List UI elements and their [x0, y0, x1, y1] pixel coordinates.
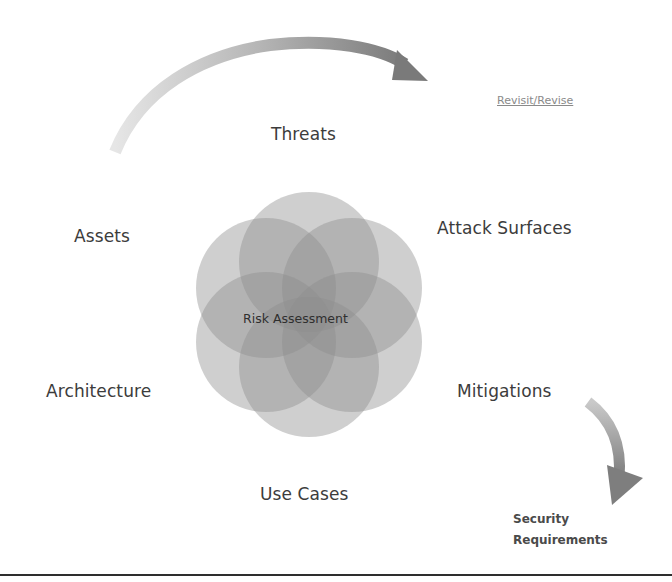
security-requirements-label: Security Requirements — [513, 509, 608, 551]
revisit-revise-label: Revisit/Revise — [497, 94, 573, 107]
node-assets: Assets — [74, 226, 130, 246]
venn-circle-top-left — [196, 218, 336, 358]
node-mitigations: Mitigations — [457, 381, 552, 401]
bottom-divider — [0, 574, 672, 576]
security-requirements-line2: Requirements — [513, 530, 608, 551]
node-attack-surfaces: Attack Surfaces — [437, 218, 572, 238]
node-architecture: Architecture — [46, 381, 151, 401]
security-requirements-line1: Security — [513, 509, 608, 530]
node-threats: Threats — [271, 124, 336, 144]
center-label: Risk Assessment — [243, 311, 348, 326]
node-use-cases: Use Cases — [260, 484, 349, 504]
